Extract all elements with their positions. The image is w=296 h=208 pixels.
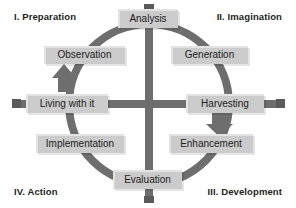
quadrant-label-development: III. Development	[208, 187, 282, 197]
tick-bottom-icon	[144, 196, 154, 203]
quadrant-label-imagination: II. Imagination	[217, 12, 282, 22]
diagram-canvas: I. Preparation II. Imagination III. Deve…	[0, 0, 296, 208]
node-enhancement[interactable]: Enhancement	[169, 134, 253, 153]
node-evaluation[interactable]: Evaluation	[113, 170, 182, 189]
node-observation[interactable]: Observation	[44, 46, 125, 64]
node-implementation[interactable]: Implementation	[36, 134, 124, 153]
quadrant-label-action: IV. Action	[14, 187, 58, 197]
node-living-with-it[interactable]: Living with it	[26, 94, 108, 113]
tick-left-icon	[12, 99, 21, 108]
quadrant-label-preparation: I. Preparation	[14, 12, 76, 22]
tick-right-icon	[276, 99, 285, 108]
node-harvesting[interactable]: Harvesting	[186, 94, 264, 113]
node-analysis[interactable]: Analysis	[118, 9, 178, 28]
node-generation[interactable]: Generation	[171, 46, 248, 64]
